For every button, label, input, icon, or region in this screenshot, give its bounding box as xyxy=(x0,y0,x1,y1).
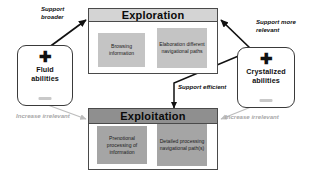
edge-label-increase-irrelevant-right: Increase irrelevant xyxy=(225,113,279,121)
exploration-subbox-browsing: Browsing information xyxy=(98,33,145,67)
edge-label-increase-irrelevant-left: Increase irrelevant xyxy=(16,112,70,120)
plus-icon: ✚ xyxy=(39,51,52,62)
crystalized-abilities-label: Crystalized abilities xyxy=(246,67,285,85)
exploitation-subbox-prenotional: Prenotional processing of information xyxy=(97,126,147,164)
arrow-crystalized-to-exploration xyxy=(221,20,252,50)
fluid-abilities-label: Fluid abilities xyxy=(31,65,59,83)
group-exploration: Browsing information Elaboration differe… xyxy=(88,18,218,74)
node-fluid-abilities: ✚ Fluid abilities xyxy=(17,45,73,106)
minus-marker-icon xyxy=(260,99,273,102)
exploitation-title: Exploitation xyxy=(120,110,185,122)
exploration-title: Exploration xyxy=(122,9,185,21)
exploration-header: Exploration xyxy=(88,8,218,22)
edge-label-support-efficient: Support efficient xyxy=(178,83,226,91)
group-exploitation: Prenotional processing of information De… xyxy=(88,118,218,170)
edge-label-support-more-relevant: Support more relevant xyxy=(256,18,296,33)
arrow-fluid-to-exploration xyxy=(48,20,86,48)
exploitation-header: Exploitation xyxy=(88,108,218,124)
edge-label-support-broader: Support broader xyxy=(41,5,64,20)
diagram-canvas: Browsing information Elaboration differe… xyxy=(0,0,310,173)
minus-marker-icon xyxy=(39,97,52,100)
plus-icon: ✚ xyxy=(260,53,273,64)
exploitation-subbox-detailed: Detailed processing navigational path(s) xyxy=(157,124,207,166)
node-crystalized-abilities: ✚ Crystalized abilities xyxy=(237,47,295,108)
exploration-subbox-elaboration: Elaboration different navigational paths xyxy=(157,28,207,68)
